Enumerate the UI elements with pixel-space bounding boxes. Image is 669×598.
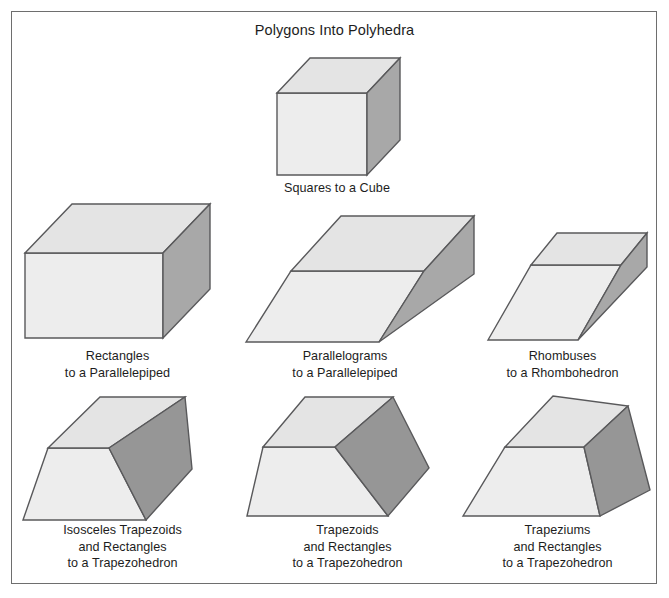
caption-squares-to-a-cube: Squares to a Cube [212, 180, 462, 197]
caption-trapeziums-to-a-trapezohedron: Trapeziums and Rectangles to a Trapezohe… [455, 522, 660, 572]
trapezohedron-isosceles-drawing [20, 392, 220, 524]
diagram-squares-to-a-cube [262, 52, 412, 182]
diagram-parallelograms-to-a-parallelepiped [240, 212, 460, 348]
diagram-rectangles-to-a-parallelepiped [20, 196, 220, 348]
trapezohedron-trapezoids-drawing [245, 392, 445, 524]
figure-title: Polygons Into Polyhedra [0, 22, 669, 38]
diagram-rhombuses-to-a-rhombohedron [480, 224, 650, 348]
caption-trapezoids-to-a-trapezohedron: Trapezoids and Rectangles to a Trapezohe… [240, 522, 455, 572]
caption-parallelograms-to-a-parallelepiped: Parallelograms to a Parallelepiped [240, 348, 450, 381]
diagram-trapeziums-to-a-trapezohedron [460, 392, 660, 524]
rhombohedron-drawing [480, 224, 650, 348]
parallelepiped-parallelogram-face-front [246, 271, 424, 342]
cube-face-front [277, 93, 367, 175]
diagram-isosceles-trapezoids-to-a-trapezohedron [20, 392, 220, 524]
cube-drawing [262, 52, 412, 182]
caption-rectangles-to-a-parallelepiped: Rectangles to a Parallelepiped [10, 348, 225, 381]
parallelepiped-rect-face-front [25, 253, 163, 338]
caption-isosceles-trapezoids-to-a-trapezohedron: Isosceles Trapezoids and Rectangles to a… [15, 522, 230, 572]
parallelepiped-rect-drawing [20, 196, 220, 348]
figure-root: Polygons Into Polyhedra Squares to a Cub… [0, 0, 669, 598]
trapezohedron-trapeziums-face-front [463, 447, 600, 516]
trapezohedron-trapeziums-drawing [460, 392, 660, 524]
parallelepiped-parallelogram-drawing [240, 212, 460, 348]
diagram-trapezoids-to-a-trapezohedron [245, 392, 445, 524]
caption-rhombuses-to-a-rhombohedron: Rhombuses to a Rhombohedron [465, 348, 660, 381]
